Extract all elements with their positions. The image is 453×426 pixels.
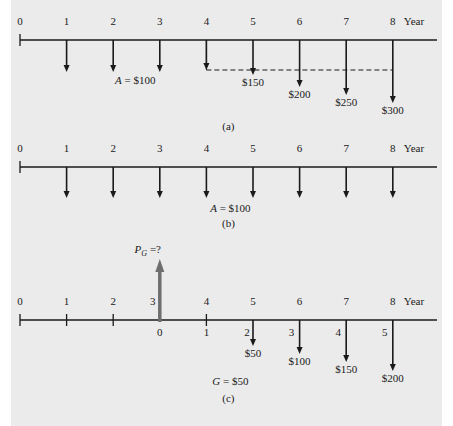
panel-a-arrow-year-7-head-icon (343, 88, 349, 95)
panel-b-arrow-year-7-head-icon (343, 191, 349, 198)
panel-a-caption: (a) (222, 120, 235, 133)
panel-c-caption: (c) (222, 392, 235, 405)
panel-a-cashflow-label: $150 (242, 76, 265, 88)
panel-c-cashflow-label: $150 (335, 363, 358, 375)
panel-c-gradient-label: G = $50 (212, 375, 249, 387)
panel-a-year-label: 7 (343, 15, 349, 27)
panel-c-year-label: 7 (343, 295, 349, 307)
panel-c-pg-arrow-head-icon (155, 259, 164, 272)
panel-b-year-label: 4 (204, 142, 210, 154)
panel-c-year-label: 3 (150, 295, 156, 307)
panel-a-year-label: 6 (297, 15, 303, 27)
panel-c-cashflow-label: $50 (245, 347, 262, 359)
panel-c-year-label: 5 (250, 295, 256, 307)
panel-a-cashflow-label: $250 (335, 96, 358, 108)
panel-c-axis-title: Year (404, 295, 425, 307)
panel-c-arrow-year-5-head-icon (250, 339, 256, 346)
panel-c-gradient-year-label: 3 (289, 326, 295, 338)
panel-a-cashflow-label: $300 (382, 104, 405, 116)
panel-c-present-worth-label: PG =? (134, 243, 161, 258)
panel-a-arrow-year-5-head-icon (250, 68, 256, 75)
panel-a-year-label: 2 (110, 15, 116, 27)
panel-a-cashflow-label: $200 (289, 88, 312, 100)
panel-a-year-label: 3 (157, 15, 163, 27)
panel-c-arrow-year-6-head-icon (297, 347, 303, 354)
panel-c-year-label: 0 (17, 295, 23, 307)
panel-c-year-label: 8 (390, 295, 396, 307)
panel-b-arrow-year-1-head-icon (64, 191, 70, 198)
panel-b-arrow-year-8-head-icon (390, 191, 396, 198)
panel-c-gradient-year-label: 4 (335, 326, 341, 338)
panel-a-arrow-year-1-head-icon (64, 65, 70, 72)
panel-a-year-label: 4 (204, 15, 210, 27)
panel-c-year-label: 4 (204, 295, 210, 307)
panel-b-year-label: 0 (17, 142, 23, 154)
panel-b-year-label: 3 (157, 142, 163, 154)
panel-c-arrow-year-7-head-icon (343, 355, 349, 362)
panel-c-gradient-year-label: 2 (244, 326, 250, 338)
panel-b-arrow-year-3-head-icon (157, 191, 163, 198)
panel-b-arrow-year-4-head-icon (203, 191, 209, 198)
panel-b-year-label: 8 (390, 142, 396, 154)
panel-c-year-label: 2 (110, 295, 116, 307)
panel-c-gradient-year-label: 1 (204, 326, 210, 338)
panel-c-gradient-year-label: 5 (382, 326, 388, 338)
panel-b-axis-title: Year (404, 142, 425, 154)
panel-b-uniform-label: A = $100 (209, 202, 251, 214)
panel-a-year-label: 1 (64, 15, 70, 27)
panel-c-gradient-year-label: 0 (157, 326, 163, 338)
panel-c-arrow-year-8-head-icon (390, 364, 396, 371)
panel-b-arrow-year-6-head-icon (297, 191, 303, 198)
panel-a-year-label: 0 (17, 15, 23, 27)
cash-flow-svg: 012345678Year$150$200$250$300A = $100(a)… (11, 0, 442, 426)
panel-a-arrow-year-3-head-icon (157, 65, 163, 72)
panel-a-arrow-year-6-head-icon (297, 80, 303, 87)
panel-a-uniform-label: A = $100 (114, 74, 156, 86)
panel-a-year-label: 5 (250, 15, 256, 27)
panel-a-year-label: 8 (390, 15, 396, 27)
panel-c-cashflow-label: $100 (289, 355, 312, 367)
panel-b-year-label: 7 (343, 142, 349, 154)
panel-c-year-label: 6 (297, 295, 303, 307)
panel-c-year-label: 1 (64, 295, 70, 307)
panel-a-arrow-year-8-head-icon (390, 96, 396, 103)
panel-b-caption: (b) (222, 217, 235, 230)
panel-b-year-label: 6 (297, 142, 303, 154)
panel-b-year-label: 5 (250, 142, 256, 154)
panel-c-cashflow-label: $200 (382, 372, 405, 384)
panel-b-arrow-year-5-head-icon (250, 191, 256, 198)
panel-b-arrow-year-2-head-icon (110, 191, 116, 198)
panel-a-axis-title: Year (404, 15, 425, 27)
panel-a-arrow-year-2-head-icon (110, 65, 116, 72)
panel-b-year-label: 2 (110, 142, 116, 154)
cash-flow-diagram: 012345678Year$150$200$250$300A = $100(a)… (11, 0, 442, 426)
panel-b-year-label: 1 (64, 142, 70, 154)
